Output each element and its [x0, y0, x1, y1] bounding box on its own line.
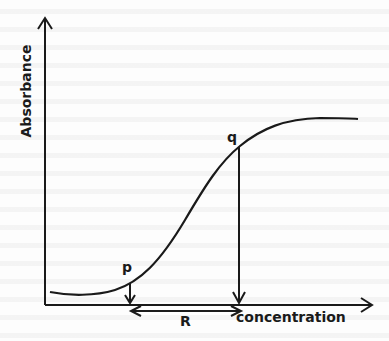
q-drop-arrow — [233, 147, 245, 303]
point-q-label: q — [227, 129, 237, 145]
absorbance-diagram — [0, 0, 389, 341]
range-r-label: R — [180, 313, 191, 329]
y-axis-label: Absorbance — [18, 45, 34, 138]
sigmoid-curve — [50, 118, 358, 295]
y-axis — [38, 18, 52, 305]
x-axis-label: concentration — [236, 309, 346, 325]
point-p-label: p — [122, 259, 132, 275]
